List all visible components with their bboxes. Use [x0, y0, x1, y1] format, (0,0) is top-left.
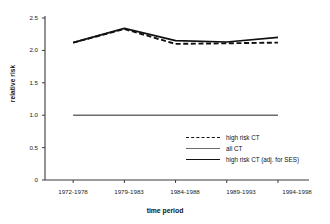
series-line-0 — [73, 29, 278, 44]
legend-swatch-thick-line-icon — [186, 159, 220, 160]
chart-figure: relative risk time period 2.5 2.0 1.5 1.… — [0, 0, 330, 224]
legend-swatch-dashed-icon — [186, 137, 220, 138]
y-tick-label-1.5: 1.5 — [14, 79, 38, 86]
legend-item-all-ct: all CT — [186, 143, 299, 154]
y-tick-label-2.5: 2.5 — [14, 14, 38, 21]
chart-legend: high risk CT all CT high risk CT (adj. f… — [186, 132, 299, 165]
y-tick-label-2.0: 2.0 — [14, 46, 38, 53]
y-tick-label-1.0: 1.0 — [14, 111, 38, 118]
legend-label-high-risk-ct-adj: high risk CT (adj. for SES) — [226, 156, 299, 163]
y-tick-label-0: 0 — [14, 176, 38, 183]
legend-label-high-risk-ct: high risk CT — [226, 134, 260, 141]
series-line-2 — [73, 28, 278, 42]
y-tick-label-0.5: 0.5 — [14, 144, 38, 151]
legend-label-all-ct: all CT — [226, 145, 242, 152]
x-tick-label-1972-1978: 1972-1978 — [45, 188, 101, 195]
legend-item-high-risk-ct: high risk CT — [186, 132, 299, 143]
x-tick-label-1979-1983: 1979-1983 — [101, 188, 157, 195]
legend-item-high-risk-ct-adj: high risk CT (adj. for SES) — [186, 154, 299, 165]
x-tick-label-1984-1988: 1984-1988 — [157, 188, 213, 195]
x-axis-title: time period — [0, 207, 330, 214]
legend-swatch-thin-line-icon — [186, 148, 220, 149]
x-tick-label-1994-1998: 1994-1998 — [269, 188, 325, 195]
x-tick-label-1989-1993: 1989-1993 — [213, 188, 269, 195]
